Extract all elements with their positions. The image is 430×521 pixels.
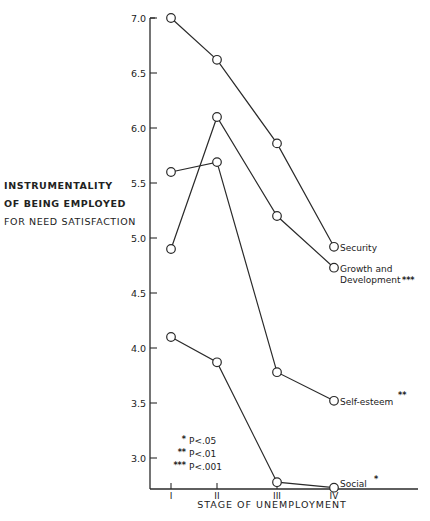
data-point	[330, 397, 339, 406]
data-point	[273, 212, 282, 221]
y-tick-label: 3.0	[131, 453, 146, 464]
y-tick-label: 4.5	[131, 288, 146, 299]
plot-area: 7.06.56.05.55.04.54.03.53.0IIIIIIIVSTAGE…	[0, 0, 430, 521]
social-significance-stars: *	[374, 475, 379, 484]
significance-key-label: P<.05	[189, 436, 216, 446]
y-tick-label: 7.0	[131, 13, 146, 24]
data-point	[213, 113, 222, 122]
self-esteem-significance-stars: **	[398, 391, 407, 400]
data-point	[167, 245, 176, 254]
growth-significance-stars: ***	[402, 276, 415, 285]
data-point	[330, 483, 339, 492]
y-tick-label: 6.5	[131, 68, 146, 79]
y-tick-label: 4.0	[131, 343, 146, 354]
series-line-growth-and-development	[171, 117, 334, 268]
data-point	[330, 243, 339, 252]
data-point	[167, 333, 176, 342]
significance-key-label: P<.001	[189, 462, 222, 472]
data-point	[167, 168, 176, 177]
data-point	[273, 368, 282, 377]
significance-key-label: P<.01	[189, 449, 216, 459]
series-label-growth-1: Growth and	[340, 264, 392, 274]
data-point	[330, 263, 339, 272]
data-point	[273, 139, 282, 148]
significance-key-stars: *	[182, 435, 187, 444]
data-point	[273, 478, 282, 487]
y-tick-label: 6.0	[131, 123, 146, 134]
series-line-self-esteem	[171, 162, 334, 401]
y-tick-label: 3.5	[131, 398, 146, 409]
significance-key-stars: ***	[173, 461, 186, 470]
data-point	[213, 56, 222, 65]
series-label-security: Security	[340, 243, 378, 253]
series-label-growth-2: Development	[340, 275, 401, 285]
data-point	[213, 358, 222, 367]
x-axis-title: STAGE OF UNEMPLOYMENT	[197, 499, 347, 510]
series-label-self-esteem: Self-esteem	[340, 397, 393, 407]
significance-key-stars: **	[178, 448, 187, 457]
data-point	[167, 14, 176, 23]
series-line-security	[171, 18, 334, 247]
y-axis-label-line-3: FOR NEED SATISFACTION	[4, 213, 136, 231]
y-axis-label-line-1: INSTRUMENTALITY	[4, 177, 136, 195]
x-tick-label: I	[170, 491, 173, 501]
data-point	[213, 158, 222, 167]
y-axis-label-line-2: OF BEING EMPLOYED	[4, 195, 136, 213]
series-label-social: Social	[340, 479, 367, 489]
line-chart: INSTRUMENTALITY OF BEING EMPLOYED FOR NE…	[0, 0, 430, 521]
y-tick-label: 5.0	[131, 233, 146, 244]
y-axis-label: INSTRUMENTALITY OF BEING EMPLOYED FOR NE…	[4, 177, 136, 231]
